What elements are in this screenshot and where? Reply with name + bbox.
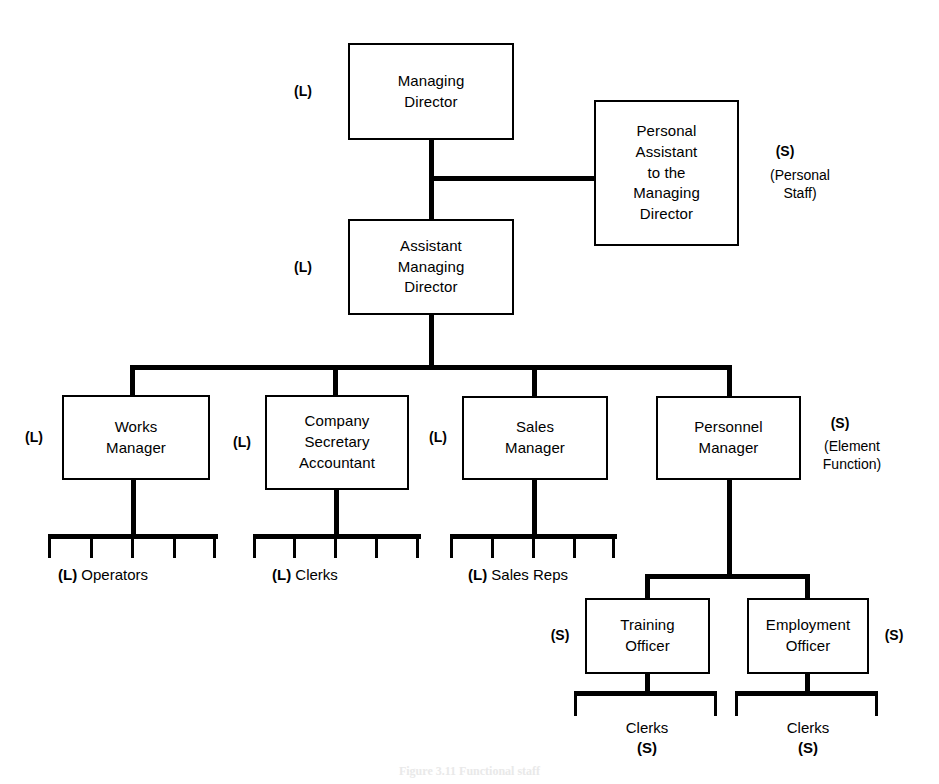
node-personal-assistant[interactable]: Personal Assistant to the Managing Direc… [594,100,739,246]
connector-drop-secretary [333,365,338,397]
node-training-officer[interactable]: Training Officer [585,598,710,674]
connector-secretary-to-clerks [334,488,339,537]
tag-assistant-md-mark: (L) [283,258,323,276]
node-assistant-managing-director[interactable]: Assistant Managing Director [348,219,514,315]
node-label-line: Assistant [636,142,698,163]
leaf-operators: (L) Operators [58,565,148,585]
node-label-line: Director [404,92,457,113]
node-label-line: to the [647,163,685,184]
organisation-chart: Managing Director (L) Personal Assistant… [0,0,939,784]
node-label-line: Manager [106,438,166,459]
tag-personnel-manager-mark: (S) [820,414,860,432]
connector-works-to-operators [131,478,136,537]
tag-personal-assistant-note: (Personal Staff) [755,166,845,203]
tag-managing-director-mark: (L) [283,82,323,100]
tag-personnel-manager-note: (Element Function) [806,437,898,474]
node-label-line: Works [115,417,158,438]
tag-works-manager-mark: (L) [14,428,54,446]
leaf-mark: (S) [798,739,818,756]
leaf-label-text: Clerks [626,719,669,736]
comb-operators-tooth [48,534,51,558]
node-employment-officer[interactable]: Employment Officer [747,598,869,674]
comb-operators-tooth [213,534,216,558]
leaf-sales-reps: (L) Sales Reps [468,565,568,585]
note-line: Staff) [783,185,816,201]
connector-drop-works [130,365,135,397]
figure-caption: Figure 3.11 Functional staff [0,764,939,779]
comb-sales-reps-tooth [573,534,576,558]
leaf-mark: (S) [637,739,657,756]
tag-company-secretary-mark: (L) [222,433,262,451]
comb-secretary-clerks-tooth [416,534,419,558]
bracket-training-clerks-tooth [574,691,577,716]
node-label-line: Company [305,411,370,432]
node-managing-director[interactable]: Managing Director [348,43,514,140]
node-label-line: Managing [633,183,700,204]
node-label-line: Personal [636,121,696,142]
connector-amd-drop [429,313,434,369]
bracket-training-clerks-tooth [714,691,717,716]
leaf-label-text: Clerks [787,719,830,736]
note-line: Function) [823,456,881,472]
leaf-label-text: Sales Reps [491,566,568,583]
comb-secretary-clerks-tooth [375,534,378,558]
node-label-line: Secretary [304,432,369,453]
connector-md-to-pa [429,176,596,181]
node-label-line: Director [640,204,693,225]
leaf-secretary-clerks: (L) Clerks [272,565,338,585]
tag-training-officer-mark: (S) [540,626,580,644]
comb-operators-tooth [131,534,134,558]
comb-secretary-clerks-rail [253,534,421,539]
connector-personnel-drop [727,478,732,577]
comb-sales-reps-tooth [491,534,494,558]
node-company-secretary[interactable]: Company Secretary Accountant [265,395,409,490]
leaf-mark: (L) [468,566,487,583]
tag-personal-assistant-mark: (S) [765,142,805,160]
connector-personnel-split-bus [645,574,810,579]
comb-operators-tooth [90,534,93,558]
tag-sales-manager-mark: (L) [418,428,458,446]
note-line: (Personal [770,167,830,183]
node-label-line: Assistant [400,236,462,257]
node-label-line: Officer [786,636,831,657]
leaf-mark: (L) [58,566,77,583]
connector-drop-sales [532,365,537,397]
node-label-line: Employment [766,615,850,636]
node-label-line: Training [620,615,674,636]
comb-secretary-clerks-tooth [253,534,256,558]
leaf-mark: (L) [272,566,291,583]
node-label-line: Manager [505,438,565,459]
comb-secretary-clerks-tooth [293,534,296,558]
comb-sales-reps-tooth [450,534,453,558]
connector-drop-employment-officer [805,574,810,600]
node-sales-manager[interactable]: Sales Manager [462,396,608,480]
node-label-line: Officer [625,636,670,657]
connector-sales-to-reps [532,478,537,537]
bracket-training-clerks-rail [574,691,717,696]
comb-sales-reps-tooth [532,534,535,558]
node-label-line: Managing [398,257,465,278]
node-label-line: Director [404,277,457,298]
connector-row3-bus [130,365,732,370]
comb-operators-tooth [173,534,176,558]
leaf-training-clerks: Clerks (S) [574,718,720,757]
node-label-line: Sales [516,417,554,438]
node-personnel-manager[interactable]: Personnel Manager [656,396,801,480]
node-label-line: Managing [398,71,465,92]
bracket-employment-clerks-tooth [735,691,738,716]
connector-drop-training-officer [645,574,650,600]
comb-secretary-clerks-tooth [334,534,337,558]
note-line: (Element [824,438,880,454]
leaf-label-text: Clerks [295,566,338,583]
node-label-line: Accountant [299,453,375,474]
comb-sales-reps-tooth [612,534,615,558]
node-label-line: Manager [699,438,759,459]
leaf-label-text: Operators [81,566,148,583]
leaf-employment-clerks: Clerks (S) [735,718,881,757]
node-label-line: Personnel [694,417,762,438]
bracket-employment-clerks-tooth [875,691,878,716]
node-works-manager[interactable]: Works Manager [62,395,210,480]
connector-drop-personnel [727,365,732,397]
tag-employment-officer-mark: (S) [874,626,914,644]
bracket-employment-clerks-rail [735,691,878,696]
